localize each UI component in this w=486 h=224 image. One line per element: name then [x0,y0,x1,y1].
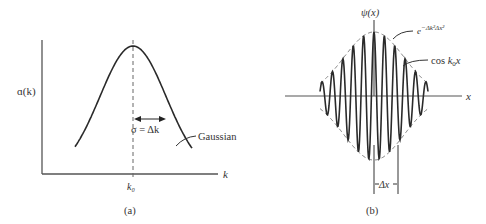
x-label-b: x [465,90,471,102]
envelope-leader [393,31,413,39]
carrier-label: cos k0x [431,55,461,68]
dx-label: Δx [378,179,390,190]
y-label-a: ɑ(k) [17,85,36,98]
envelope-exponent: −Δk²Δx² [421,24,445,32]
k0-tick-label: k₀ [127,181,135,192]
x-label-a: k [223,168,229,180]
caption-a: (a) [124,205,136,217]
sigma-arrow [134,116,166,122]
psi-label: ψ(x) [361,7,380,19]
figure: ɑ(k) k k₀ σ = Δk Gaussian (a) ψ(x) x e−Δ… [0,0,486,224]
gaussian-label: Gaussian [198,131,237,142]
panel-a: ɑ(k) k k₀ σ = Δk Gaussian (a) [17,40,237,217]
sigma-label: σ = Δk [131,124,160,135]
panel-b: ψ(x) x e−Δk²Δx² cos k0x Δx (b) [285,7,471,217]
envelope-label: e−Δk²Δx² [417,24,445,36]
caption-b: (b) [366,205,379,217]
